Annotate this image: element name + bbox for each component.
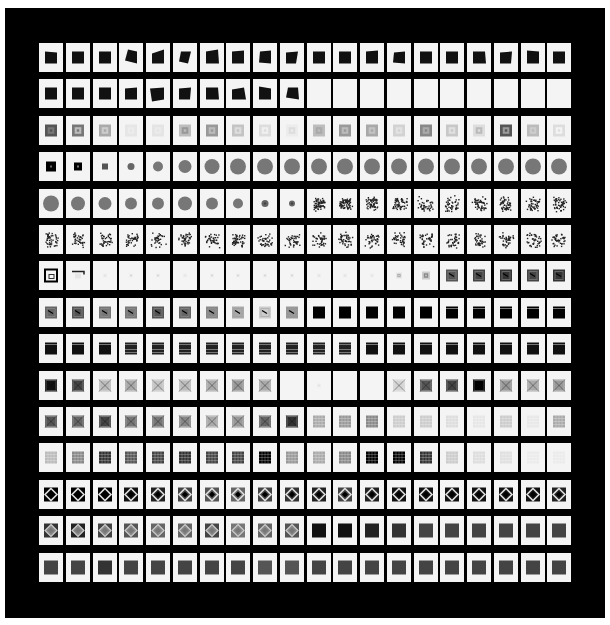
grid-thumbnail	[494, 116, 518, 145]
thumbnail-pattern-icon	[440, 480, 464, 509]
grid-thumbnail	[146, 79, 170, 108]
grid-thumbnail	[93, 116, 117, 145]
thumbnail-pattern-icon	[226, 334, 250, 363]
grid-thumbnail	[494, 371, 518, 400]
grid-thumbnail	[253, 443, 277, 472]
thumbnail-pattern-icon	[39, 189, 63, 218]
grid-thumbnail	[494, 407, 518, 436]
thumbnail-pattern-icon	[226, 116, 250, 145]
thumbnail-pattern-icon	[494, 480, 518, 509]
grid-thumbnail	[440, 443, 464, 472]
thumbnail-pattern-icon	[467, 43, 491, 72]
thumbnail-pattern-icon	[387, 553, 411, 582]
thumbnail-pattern-icon	[119, 516, 143, 545]
thumbnail-pattern-icon	[440, 152, 464, 181]
thumbnail-pattern-icon	[387, 443, 411, 472]
thumbnail-pattern-icon	[39, 116, 63, 145]
grid-thumbnail	[521, 334, 545, 363]
grid-thumbnail	[280, 225, 304, 254]
thumbnail-pattern-icon	[521, 516, 545, 545]
grid-thumbnail	[547, 298, 571, 327]
grid-thumbnail	[280, 261, 304, 290]
thumbnail-pattern-icon	[414, 298, 438, 327]
thumbnail-pattern-icon	[119, 371, 143, 400]
thumbnail-pattern-icon	[467, 116, 491, 145]
thumbnail-pattern-icon	[93, 334, 117, 363]
grid-thumbnail	[93, 189, 117, 218]
grid-thumbnail	[360, 79, 384, 108]
thumbnail-pattern-icon	[226, 371, 250, 400]
grid-thumbnail	[253, 334, 277, 363]
thumbnail-pattern-icon	[146, 43, 170, 72]
thumbnail-pattern-icon	[280, 261, 304, 290]
grid-thumbnail	[226, 334, 250, 363]
grid-thumbnail	[93, 152, 117, 181]
grid-thumbnail	[360, 553, 384, 582]
thumbnail-pattern-icon	[547, 43, 571, 72]
grid-thumbnail	[66, 443, 90, 472]
grid-thumbnail	[360, 225, 384, 254]
grid-thumbnail	[93, 261, 117, 290]
thumbnail-pattern-icon	[39, 480, 63, 509]
grid-thumbnail	[280, 553, 304, 582]
grid-thumbnail	[226, 298, 250, 327]
grid-thumbnail	[521, 189, 545, 218]
grid-thumbnail	[280, 516, 304, 545]
thumbnail-pattern-icon	[387, 225, 411, 254]
thumbnail-pattern-icon	[200, 189, 224, 218]
grid-thumbnail	[360, 43, 384, 72]
thumbnail-pattern-icon	[66, 298, 90, 327]
grid-thumbnail	[119, 553, 143, 582]
thumbnail-pattern-icon	[146, 371, 170, 400]
grid-thumbnail	[93, 298, 117, 327]
thumbnail-pattern-icon	[467, 225, 491, 254]
thumbnail-pattern-icon	[66, 225, 90, 254]
grid-thumbnail	[414, 225, 438, 254]
thumbnail-pattern-icon	[200, 152, 224, 181]
thumbnail-pattern-icon	[119, 79, 143, 108]
grid-thumbnail	[521, 480, 545, 509]
grid-thumbnail	[547, 553, 571, 582]
grid-thumbnail	[521, 43, 545, 72]
thumbnail-pattern-icon	[280, 407, 304, 436]
grid-thumbnail	[39, 480, 63, 509]
grid-thumbnail	[119, 152, 143, 181]
grid-thumbnail	[200, 152, 224, 181]
grid-thumbnail	[387, 480, 411, 509]
thumbnail-pattern-icon	[307, 43, 331, 72]
grid-thumbnail	[307, 79, 331, 108]
grid-thumbnail	[253, 407, 277, 436]
thumbnail-pattern-icon	[333, 480, 357, 509]
thumbnail-pattern-icon	[39, 407, 63, 436]
grid-thumbnail	[387, 553, 411, 582]
grid-thumbnail	[173, 189, 197, 218]
thumbnail-pattern-icon	[440, 43, 464, 72]
grid-thumbnail	[66, 407, 90, 436]
grid-thumbnail	[253, 516, 277, 545]
grid-thumbnail	[146, 261, 170, 290]
grid-thumbnail	[66, 334, 90, 363]
thumbnail-pattern-icon	[521, 152, 545, 181]
thumbnail-pattern-icon	[414, 261, 438, 290]
thumbnail-pattern-icon	[494, 553, 518, 582]
grid-thumbnail	[387, 189, 411, 218]
grid-thumbnail	[280, 298, 304, 327]
thumbnail-pattern-icon	[253, 553, 277, 582]
grid-thumbnail	[119, 407, 143, 436]
grid-thumbnail	[414, 407, 438, 436]
thumbnail-pattern-icon	[93, 116, 117, 145]
grid-thumbnail	[146, 371, 170, 400]
thumbnail-pattern-icon	[440, 407, 464, 436]
grid-thumbnail	[93, 553, 117, 582]
thumbnail-pattern-icon	[494, 261, 518, 290]
thumbnail-pattern-icon	[333, 553, 357, 582]
grid-thumbnail	[93, 443, 117, 472]
grid-thumbnail	[200, 189, 224, 218]
thumbnail-pattern-icon	[414, 371, 438, 400]
grid-thumbnail	[440, 298, 464, 327]
thumbnail-pattern-icon	[387, 152, 411, 181]
grid-thumbnail	[280, 443, 304, 472]
grid-thumbnail	[494, 43, 518, 72]
thumbnail-pattern-icon	[66, 443, 90, 472]
thumbnail-pattern-icon	[93, 225, 117, 254]
